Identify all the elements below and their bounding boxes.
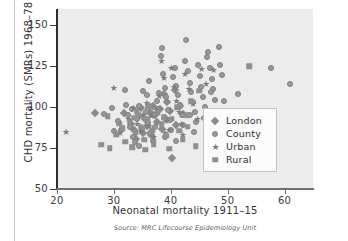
- data-point-london: [130, 126, 138, 134]
- data-point-county: [162, 134, 168, 140]
- data-point-county: [287, 81, 293, 87]
- data-point-county: [125, 112, 131, 118]
- data-point-county: [187, 80, 193, 86]
- data-point-rural: [105, 113, 111, 119]
- data-point-urban: [202, 81, 209, 88]
- data-point-county: [235, 91, 241, 97]
- data-point-county: [118, 127, 124, 133]
- data-point-urban: [147, 113, 154, 120]
- data-point-county: [183, 37, 189, 43]
- data-point-rural: [155, 110, 161, 116]
- y-axis-line: [56, 9, 58, 190]
- data-point-urban: [152, 107, 159, 114]
- data-point-county: [182, 58, 188, 64]
- data-point-rural: [169, 116, 175, 122]
- legend-label: London: [226, 115, 262, 126]
- data-point-urban: [139, 111, 146, 118]
- data-point-london: [161, 114, 169, 122]
- legend-item-london[interactable]: London: [210, 114, 270, 127]
- data-point-county: [140, 88, 146, 94]
- data-point-county: [168, 127, 174, 133]
- data-point-london: [168, 154, 176, 162]
- data-point-urban: [137, 127, 144, 134]
- legend-item-county[interactable]: County: [210, 127, 270, 140]
- data-point-county: [145, 120, 151, 126]
- data-point-london: [148, 102, 156, 110]
- data-point-county: [204, 54, 210, 60]
- data-point-rural: [134, 109, 140, 115]
- data-point-county: [156, 90, 162, 96]
- data-point-rural: [107, 145, 113, 151]
- data-point-london: [134, 113, 142, 121]
- data-point-county: [190, 99, 196, 105]
- data-point-county: [208, 89, 214, 95]
- data-point-county: [109, 105, 115, 111]
- data-point-county: [219, 72, 225, 78]
- y-axis-title: CHD mortality (SMRs) 1968–78: [23, 3, 34, 163]
- data-point-rural: [159, 122, 165, 128]
- circle-marker-icon: [210, 129, 220, 139]
- data-point-rural: [141, 137, 147, 143]
- data-point-county: [200, 94, 206, 100]
- data-point-county: [175, 92, 181, 98]
- data-point-london: [171, 86, 179, 94]
- data-point-london: [172, 121, 180, 129]
- data-point-county: [207, 65, 213, 71]
- data-point-county: [209, 76, 215, 82]
- data-point-rural: [180, 136, 186, 142]
- data-point-rural: [164, 133, 170, 139]
- data-point-county: [210, 86, 216, 92]
- data-point-london: [145, 108, 153, 116]
- data-point-county: [167, 117, 173, 123]
- data-point-london: [160, 90, 168, 98]
- data-point-london: [158, 125, 166, 133]
- data-point-urban: [133, 120, 140, 127]
- legend-item-urban[interactable]: Urban: [210, 140, 270, 153]
- data-point-urban: [150, 134, 157, 141]
- data-point-london: [127, 119, 135, 127]
- data-point-urban: [162, 118, 169, 125]
- data-point-county: [159, 45, 165, 51]
- data-point-rural: [188, 99, 194, 105]
- data-point-urban: [160, 74, 167, 81]
- data-point-urban: [158, 57, 165, 64]
- data-point-london: [139, 129, 147, 137]
- data-point-county: [155, 106, 161, 112]
- star-marker-icon: [210, 142, 220, 152]
- x-tick-mark: [228, 188, 229, 194]
- data-point-london: [132, 135, 140, 143]
- data-point-county: [127, 124, 133, 130]
- data-point-rural: [113, 131, 119, 137]
- data-point-county: [173, 83, 179, 89]
- legend-label: Rural: [226, 154, 252, 165]
- data-point-london: [120, 109, 128, 117]
- x-axis-line: [56, 188, 314, 190]
- data-point-county: [123, 102, 129, 108]
- data-point-rural: [177, 128, 183, 134]
- data-point-county: [130, 134, 136, 140]
- data-point-urban: [209, 66, 216, 73]
- data-point-urban: [193, 115, 200, 122]
- data-point-london: [176, 101, 184, 109]
- data-point-urban: [175, 109, 182, 116]
- x-tick-mark: [114, 188, 115, 194]
- data-point-rural: [127, 119, 133, 125]
- data-point-county: [192, 109, 198, 115]
- data-point-rural: [136, 112, 142, 118]
- data-point-county: [122, 87, 128, 93]
- data-point-london: [147, 131, 155, 139]
- legend-item-rural[interactable]: Rural: [210, 153, 270, 166]
- data-point-county: [134, 116, 140, 122]
- data-point-rural: [166, 146, 172, 152]
- data-point-county: [132, 139, 138, 145]
- data-point-county: [216, 44, 222, 50]
- data-point-urban: [167, 64, 174, 71]
- data-point-rural: [184, 113, 190, 119]
- data-point-rural: [129, 145, 135, 151]
- y-tick-mark: [50, 148, 57, 149]
- y-tick-mark: [50, 66, 57, 67]
- data-point-urban: [145, 123, 152, 130]
- data-point-urban: [179, 132, 186, 139]
- data-point-urban: [125, 116, 132, 123]
- data-point-london: [90, 109, 98, 117]
